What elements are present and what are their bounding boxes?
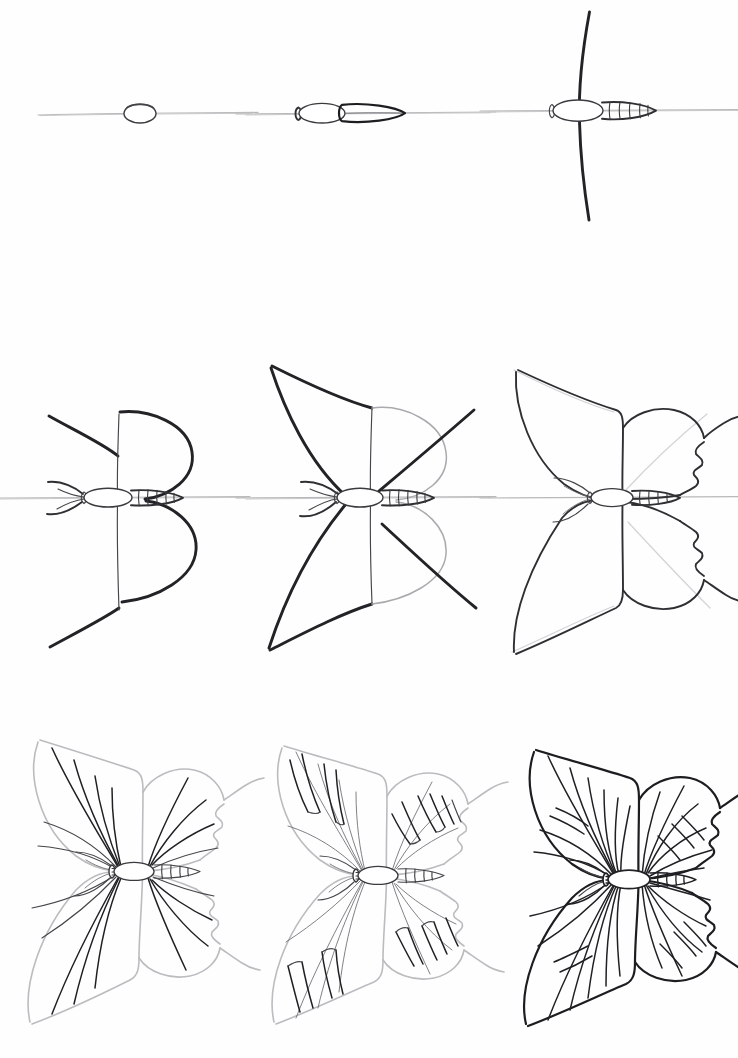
- right-forewing-top-edge: [623, 409, 704, 438]
- vein-lf-6: [621, 806, 630, 875]
- step-7-panel: [0, 704, 246, 1058]
- right-forewing-scalloped-edge: [696, 812, 720, 868]
- cell-lh-a-right: [302, 962, 313, 1008]
- cell-lh-a-top: [288, 962, 302, 966]
- step-8-drawing: [246, 704, 492, 1058]
- right-hindwing-scalloped-edge: [680, 521, 704, 576]
- vein-rf-3: [152, 824, 214, 865]
- cell-rf-a-bottom: [410, 840, 420, 844]
- right-forewing-tail: [720, 786, 738, 808]
- abdomen-segment-2: [667, 873, 668, 886]
- abdomen-segment-4: [188, 868, 189, 876]
- left-hindwing-inner-edge: [622, 504, 623, 590]
- antenna-lower: [553, 504, 588, 522]
- thorax-oval: [84, 488, 132, 507]
- abdomen-segment-4: [667, 493, 668, 502]
- cell-lf-b-inner: [556, 808, 588, 826]
- cell-lh-a-left: [288, 966, 300, 1012]
- step-2-panel: [246, 0, 492, 352]
- abdomen-segment-1: [406, 869, 407, 883]
- abdomen-segment-4: [166, 492, 167, 504]
- left-hindwing-bottom-edge: [276, 960, 383, 1024]
- vein-lf-4: [356, 792, 365, 871]
- abdomen-segment-5: [648, 105, 649, 116]
- thorax-oval: [608, 870, 650, 888]
- abdomen-segment-5: [425, 493, 426, 502]
- leftover-guide-bottom: [512, 606, 614, 652]
- leg-upper: [580, 868, 606, 878]
- step-2-drawing: [246, 0, 492, 352]
- abdomen-segment-4: [432, 872, 433, 880]
- left-forewing-leading-edge: [271, 368, 346, 496]
- step-1-drawing: [0, 0, 246, 352]
- vein-lf-3: [339, 780, 364, 871]
- right-hindwing-tail: [716, 952, 738, 974]
- cell-rf-b-bottom: [436, 827, 445, 832]
- cell-rf-a-right: [402, 802, 420, 840]
- thorax-oval: [358, 866, 398, 884]
- step-5-panel: [246, 352, 492, 704]
- abdomen-segment-3: [180, 866, 181, 877]
- right-forewing-top-edge: [639, 777, 720, 808]
- abdomen-segment-3: [424, 870, 425, 881]
- thorax-oval: [591, 489, 633, 507]
- abdomen-segment-3: [658, 492, 659, 504]
- step-4-drawing: [0, 352, 246, 704]
- vein-lh-2: [74, 878, 119, 1004]
- right-forewing-scalloped-edge: [200, 804, 224, 860]
- vertical-axis-upper: [370, 408, 372, 495]
- left-hindwing-bottom-edge: [32, 958, 139, 1024]
- cell-lf-b-left: [324, 764, 336, 822]
- lower-right-wing-loop: [122, 501, 196, 602]
- lower-right-wing-loop: [372, 502, 446, 604]
- vein-lh-5: [617, 884, 621, 976]
- right-forewing-tail: [704, 416, 738, 438]
- right-forewing-top-edge: [143, 769, 224, 800]
- left-forewing-top-edge: [536, 750, 639, 800]
- vein-lh-1: [548, 884, 614, 1020]
- left-hindwing-bottom-edge: [270, 604, 372, 650]
- right-hindwing-bottom-edge: [139, 948, 220, 977]
- left-hindwing-inner-edge: [139, 876, 143, 958]
- left-forewing-leading-edge: [278, 748, 358, 875]
- lower-diagonal-guide: [382, 524, 476, 608]
- vein-lf-3: [95, 776, 120, 867]
- cell-lh-b-inner: [560, 956, 592, 972]
- cell-lh-a-inner: [554, 946, 588, 962]
- steps-grid: [0, 0, 738, 1058]
- lower-left-guide-arc: [50, 608, 119, 647]
- cell-rf-c-right: [452, 800, 461, 822]
- thorax-oval: [337, 488, 383, 507]
- right-forewing-scalloped-edge: [680, 442, 704, 495]
- vein-rh-1: [148, 878, 186, 970]
- cell-rh-b-left: [422, 926, 437, 960]
- cell-rf-b-inner: [682, 816, 704, 840]
- left-hindwing-trailing-edge: [272, 876, 357, 1022]
- vein-lh-1: [296, 882, 362, 1018]
- left-forewing-top-edge: [272, 366, 372, 408]
- vein-rf-2: [394, 804, 450, 870]
- abdomen-segment-2: [415, 869, 416, 882]
- vertical-axis-lower: [117, 504, 119, 610]
- upper-left-guide-arc: [49, 416, 118, 456]
- left-hindwing-bottom-edge: [516, 590, 623, 654]
- left-hindwing-inner-edge: [635, 884, 639, 962]
- upper-right-wing-loop: [120, 412, 192, 499]
- cell-lf-b-bottom: [336, 822, 344, 825]
- left-hindwing-inner-edge: [383, 880, 387, 960]
- cell-rh-a-top: [396, 928, 408, 932]
- cell-rf-c-inner: [658, 836, 680, 860]
- cell-lf-a-bottom: [308, 812, 320, 814]
- cell-rh-b-inner: [684, 922, 706, 946]
- left-hindwing-trailing-edge: [514, 500, 599, 652]
- left-forewing-inner-edge: [622, 428, 623, 495]
- right-hindwing-scalloped-edge: [196, 889, 220, 944]
- left-forewing-inner-edge: [638, 800, 639, 875]
- abdomen-segment-2: [171, 865, 172, 878]
- left-forewing-top-edge: [40, 740, 143, 792]
- step-7-drawing: [0, 704, 246, 1058]
- cell-rh-b-right: [434, 922, 447, 954]
- step-6-panel: [492, 352, 738, 704]
- right-hindwing-bottom-edge: [623, 580, 704, 609]
- step-1-panel: [0, 0, 246, 352]
